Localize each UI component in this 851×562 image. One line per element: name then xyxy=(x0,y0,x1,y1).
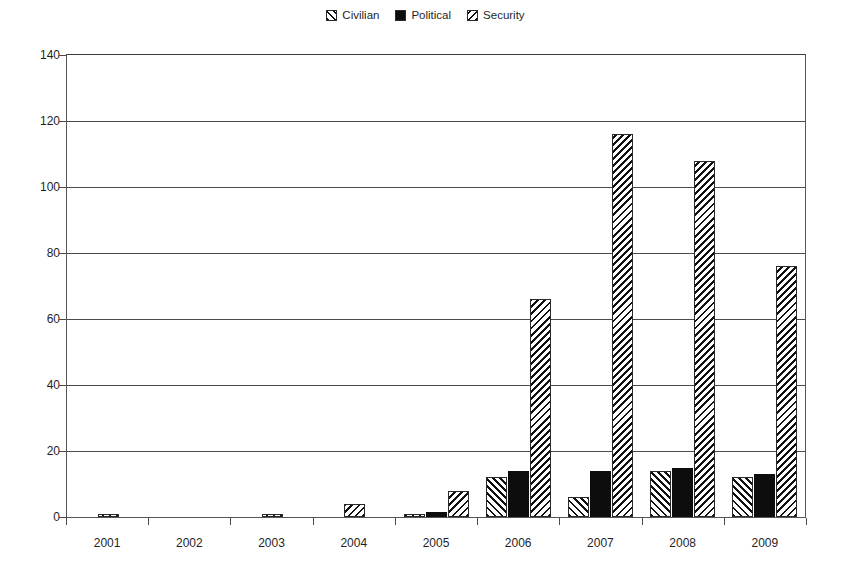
chart-legend: Civilian Political Security xyxy=(0,10,851,22)
bar-political-2007 xyxy=(590,471,611,517)
y-tick-label: 80 xyxy=(20,246,60,260)
y-tick-label: 0 xyxy=(20,510,60,524)
solid-black-swatch xyxy=(395,10,406,21)
x-tick-mark xyxy=(230,518,231,525)
y-tick-label: 40 xyxy=(20,378,60,392)
bar-group-2007 xyxy=(559,55,641,517)
y-tick-label: 100 xyxy=(20,180,60,194)
y-tick-mark xyxy=(59,55,66,56)
bar-group-2005 xyxy=(395,55,477,517)
legend-item-security: Security xyxy=(467,10,525,22)
x-tick-labels: 200120022003200420052006200720082009 xyxy=(66,536,806,550)
y-tick-mark xyxy=(59,451,66,452)
bar-security-2001 xyxy=(98,514,119,517)
x-tick-mark xyxy=(724,518,725,525)
y-tick-mark xyxy=(59,121,66,122)
x-tick-mark xyxy=(642,518,643,525)
bar-political-2005 xyxy=(426,512,447,517)
bar-civilian-2006 xyxy=(486,477,507,517)
legend-label-civilian: Civilian xyxy=(342,10,379,22)
bar-civilian-2009 xyxy=(732,477,753,517)
bar-group-2006 xyxy=(477,55,559,517)
x-tick-label-2006: 2006 xyxy=(477,536,559,550)
y-tick-mark xyxy=(59,385,66,386)
bar-group-2003 xyxy=(231,55,313,517)
x-tick-mark xyxy=(559,518,560,525)
x-tick-label-2002: 2002 xyxy=(148,536,230,550)
bar-security-2004 xyxy=(344,504,365,517)
x-tick-mark xyxy=(148,518,149,525)
bar-political-2009 xyxy=(754,474,775,517)
bar-security-2006 xyxy=(530,299,551,517)
legend-item-civilian: Civilian xyxy=(326,10,379,22)
bar-group-2002 xyxy=(149,55,231,517)
bar-groups xyxy=(67,55,805,517)
y-tick-label: 140 xyxy=(20,48,60,62)
x-tick-label-2004: 2004 xyxy=(313,536,395,550)
bar-political-2006 xyxy=(508,471,529,517)
x-tick-mark xyxy=(395,518,396,525)
bar-group-2008 xyxy=(641,55,723,517)
x-tick-label-2008: 2008 xyxy=(642,536,724,550)
y-tick-label: 60 xyxy=(20,312,60,326)
bar-political-2008 xyxy=(672,468,693,518)
bar-civilian-2005 xyxy=(404,514,425,517)
y-tick-mark xyxy=(59,319,66,320)
bar-security-2003 xyxy=(262,514,283,517)
x-tick-mark xyxy=(313,518,314,525)
bar-security-2007 xyxy=(612,134,633,517)
bar-group-2004 xyxy=(313,55,395,517)
bar-security-2005 xyxy=(448,491,469,517)
bar-group-2001 xyxy=(67,55,149,517)
x-tick-label-2003: 2003 xyxy=(230,536,312,550)
bar-civilian-2008 xyxy=(650,471,671,517)
y-tick-mark xyxy=(59,253,66,254)
x-tick-label-2005: 2005 xyxy=(395,536,477,550)
bar-civilian-2007 xyxy=(568,497,589,517)
x-axis: 200120022003200420052006200720082009 xyxy=(66,518,806,562)
x-tick-label-2001: 2001 xyxy=(66,536,148,550)
y-tick-label: 120 xyxy=(20,114,60,128)
x-tick-mark xyxy=(477,518,478,525)
x-tick-mark xyxy=(66,518,67,525)
x-tick-mark xyxy=(806,518,807,525)
legend-label-security: Security xyxy=(483,10,525,22)
x-tick-label-2009: 2009 xyxy=(724,536,806,550)
legend-item-political: Political xyxy=(395,10,451,22)
y-tick-mark xyxy=(59,187,66,188)
bar-security-2008 xyxy=(694,161,715,517)
y-tick-mark xyxy=(59,517,66,518)
bar-group-2009 xyxy=(723,55,805,517)
bar-chart: 020406080100120140 200120022003200420052… xyxy=(0,34,851,562)
x-tick-label-2007: 2007 xyxy=(559,536,641,550)
hatch-forward-swatch xyxy=(326,10,337,21)
hatch-backward-swatch xyxy=(467,10,478,21)
y-tick-label: 20 xyxy=(20,444,60,458)
bar-security-2009 xyxy=(776,266,797,517)
legend-label-political: Political xyxy=(411,10,451,22)
